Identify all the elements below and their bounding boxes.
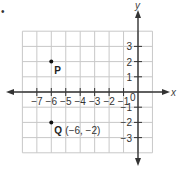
x-tick-label: −2 bbox=[103, 96, 115, 107]
y-tick-label: 1 bbox=[126, 72, 132, 83]
y-tick-label: −3 bbox=[121, 133, 133, 144]
x-tick-label: −3 bbox=[89, 96, 101, 107]
point-q bbox=[49, 120, 53, 124]
y-tick-label: 2 bbox=[126, 57, 132, 68]
y-tick-label: −2 bbox=[121, 117, 133, 128]
point-label-p: P bbox=[54, 65, 61, 76]
x-tick-label: −6 bbox=[46, 96, 58, 107]
x-tick-label: −7 bbox=[31, 96, 43, 107]
x-axis-label: x bbox=[170, 87, 177, 98]
y-tick-label: 3 bbox=[126, 41, 132, 52]
point-p bbox=[49, 60, 53, 64]
y-axis-label: y bbox=[134, 0, 141, 11]
x-axis-right-arrow-icon bbox=[162, 89, 170, 95]
bullet-mark: • bbox=[1, 6, 5, 17]
x-tick-label: −4 bbox=[74, 96, 86, 107]
coordinate-plane: • x y 0 −7−6−5−4−3−2−1321−1−2−3 PQ(−6, −… bbox=[0, 0, 177, 169]
x-tick-label: −5 bbox=[60, 96, 72, 107]
axes: x y 0 bbox=[6, 0, 177, 166]
x-axis-left-arrow-icon bbox=[6, 89, 14, 95]
point-label-q: Q bbox=[54, 125, 62, 136]
point-coords-q: (−6, −2) bbox=[65, 125, 100, 136]
y-axis-up-arrow-icon bbox=[135, 10, 141, 18]
y-axis-down-arrow-icon bbox=[135, 158, 141, 166]
y-tick-label: −1 bbox=[121, 102, 133, 113]
